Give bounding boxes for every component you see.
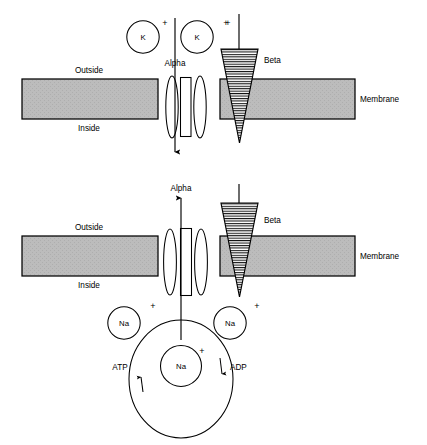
atp-label: ATP [112,363,128,372]
beta-charge: + [223,18,228,28]
alpha-ellipse-right [195,229,208,295]
ion-label: Na [225,319,236,328]
ion-label: Na [176,362,187,371]
beta-label: Beta [264,216,281,225]
membrane-label: Membrane [360,252,400,261]
ion-label: K [194,33,200,42]
alpha-subunit [166,76,206,138]
membrane-slab-left [22,79,158,119]
membrane-channel-diagram: K + K + Outside Inside Membrane Alpha [0,0,427,445]
ion-charge: + [162,18,167,28]
membrane-bar [22,79,158,119]
alpha-pore [181,78,192,137]
ion-charge: + [254,301,259,311]
membrane-label: Membrane [360,95,400,104]
membrane-bar [22,236,158,276]
alpha-label: Alpha [171,184,192,193]
membrane-slab-left [22,236,158,276]
ion-label: Na [119,319,130,328]
canvas-background [0,0,427,445]
inside-label: Inside [78,281,100,290]
outside-label: Outside [75,223,104,232]
ion-label: K [140,33,146,42]
alpha-pore [181,229,192,296]
alpha-ellipse-left [164,229,177,295]
alpha-ellipse-left [166,76,178,138]
adp-label: ADP [230,363,247,372]
beta-label: Beta [264,56,281,65]
inside-label: Inside [78,124,100,133]
ion-charge: + [199,346,204,356]
alpha-subunit [164,229,208,296]
outside-label: Outside [75,66,104,75]
ion-charge: + [150,301,155,311]
alpha-ellipse-right [194,76,206,138]
